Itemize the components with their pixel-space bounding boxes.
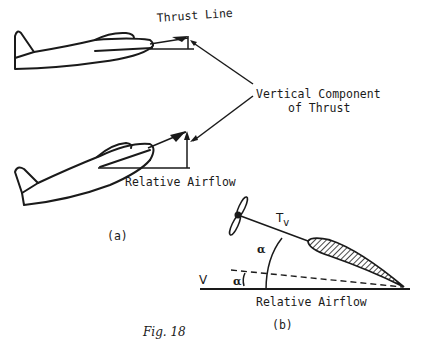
alpha-upper-label: α [257,243,266,256]
vertical-component-label-line1: Vertical Component [256,87,381,101]
figure-caption: Fig. 18 [142,325,186,339]
panel-b-diagram [200,196,410,290]
velocity-label: V [199,273,208,287]
alpha-arc-upper [266,238,282,290]
aircraft-climbing [15,131,190,205]
thrust-arrow-climb-icon [170,131,186,142]
panel-b-label: (b) [272,318,293,332]
wing-line [95,48,152,51]
fuselage-bottom [15,47,152,69]
alpha-arc-lower [243,273,245,286]
figure-18: Thrust Line Vertical Component of Thrust [0,0,435,356]
leader-line-upper [192,42,253,84]
relative-airflow-label-a: Relative Airflow [125,175,236,189]
aircraft-level [15,32,194,69]
leader-arrow-lower-icon [190,135,198,142]
vertical-component-label-line2: of Thrust [288,101,350,115]
panel-a-label: (a) [107,229,128,243]
thrust-line-label: Thrust Line [156,6,233,25]
alpha-lower-label: α [233,275,242,288]
diagram-canvas: Thrust Line Vertical Component of Thrust [0,0,435,356]
relative-airflow-label-b: Relative Airflow [256,295,367,309]
thrust-axis-line [238,215,308,241]
leader-line-lower [193,96,253,141]
thrust-vector-label: Tv [275,211,289,228]
